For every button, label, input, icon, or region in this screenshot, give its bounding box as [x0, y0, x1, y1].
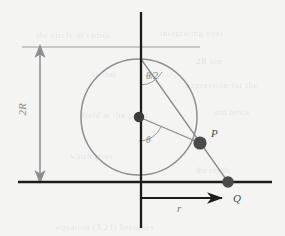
diagram-canvas	[0, 0, 285, 236]
label-distance-r: r	[177, 203, 181, 214]
label-point-p: P	[211, 128, 218, 139]
label-point-q: Q	[233, 193, 241, 204]
point-q-dot	[222, 176, 234, 188]
geometry-figure: the circle of radius integrating over 2R…	[0, 0, 285, 236]
label-angle-theta: θ	[146, 136, 151, 146]
point-p-dot	[193, 136, 206, 149]
circle-center-dot	[134, 112, 144, 122]
label-angle-theta-half: θ/2	[146, 72, 158, 82]
label-diameter-2r: 2R	[17, 103, 28, 115]
